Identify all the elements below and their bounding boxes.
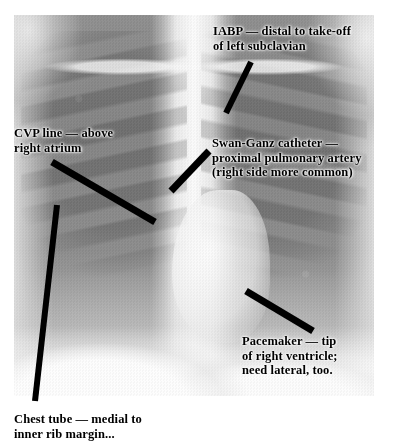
annotated-radiograph-page: IABP — distal to take-off of left subcla…: [0, 0, 393, 447]
annotation-label-iabp: IABP — distal to take-off of left subcla…: [213, 24, 391, 53]
annotation-label-pacemaker: Pacemaker — tip of right ventricle; need…: [242, 334, 392, 378]
annotation-label-swan-ganz-catheter: Swan-Ganz catheter — proximal pulmonary …: [212, 136, 392, 180]
annotation-label-cvp-line: CVP line — above right atrium: [14, 126, 146, 155]
annotation-label-chest-tube: Chest tube — medial to inner rib margin.…: [14, 412, 214, 441]
